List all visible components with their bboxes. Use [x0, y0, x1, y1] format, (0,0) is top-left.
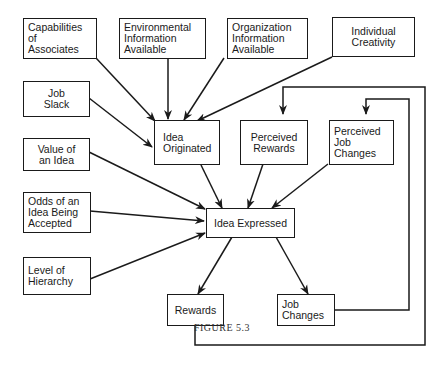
edge-jobslack-to-originated	[89, 98, 152, 147]
node-perceived-rewards: Perceived Rewards	[240, 120, 308, 165]
node-value-of-an-idea: Value of an Idea	[23, 138, 90, 171]
node-idea-originated: Idea Originated	[154, 120, 220, 165]
node-level-of-hierarchy: Level of Hierarchy	[23, 257, 91, 295]
node-odds-of-idea-accepted: Odds of an Idea Being Accepted	[23, 192, 91, 233]
node-perceived-job-changes: Perceived Job Changes	[329, 120, 394, 165]
edge-hierarchy-to-expressed	[90, 233, 205, 279]
figure-caption: FIGURE 5.3	[0, 322, 444, 333]
node-job-slack: Job Slack	[23, 81, 90, 117]
edge-capabilities-to-originated	[96, 58, 155, 121]
node-idea-expressed: Idea Expressed	[206, 208, 295, 238]
node-individual-creativity: Individual Creativity	[332, 17, 415, 57]
node-organization-information: Organization Information Available	[227, 18, 308, 59]
edge-originated-to-expressed	[201, 165, 222, 208]
node-environmental-information: Environmental Information Available	[119, 18, 206, 59]
edge-expressed-to-jobchanges	[276, 237, 308, 294]
edge-perceivedjob-to-expressed	[272, 164, 328, 208]
edge-odds-to-expressed	[90, 211, 204, 221]
node-capabilities-of-associates: Capabilities of Associates	[23, 18, 97, 59]
edge-perceivedrewards-to-expressed	[248, 164, 263, 208]
edge-expressed-to-rewards	[198, 237, 232, 294]
edge-creativity-to-originated	[197, 57, 332, 121]
